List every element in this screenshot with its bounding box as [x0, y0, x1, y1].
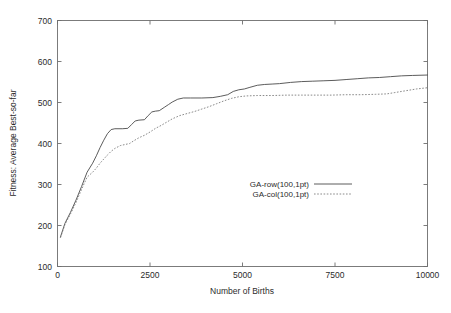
- y-axis-title: Fitness: Average Best-so-far: [8, 89, 18, 196]
- x-tick-label: 2500: [141, 270, 160, 280]
- plot-frame: [58, 21, 428, 267]
- line-chart: 100200300400500600700 025005000750010000…: [0, 0, 451, 313]
- y-tick-label: 600: [38, 57, 52, 67]
- x-tick-label: 7500: [326, 270, 345, 280]
- legend: GA-row(100,1pt) GA-col(100,1pt): [250, 180, 352, 199]
- y-tick-label: 500: [38, 98, 52, 108]
- series-line-ga-col: [60, 88, 427, 238]
- y-axis-tick-labels: 100200300400500600700: [38, 16, 52, 272]
- series-line-ga-row: [60, 75, 427, 237]
- x-tick-label: 5000: [233, 270, 252, 280]
- chart-figure: 100200300400500600700 025005000750010000…: [0, 0, 451, 313]
- y-tick-label: 200: [38, 221, 52, 231]
- y-tick-label: 100: [38, 262, 52, 272]
- y-tick-label: 400: [38, 139, 52, 149]
- y-tick-label: 300: [38, 180, 52, 190]
- legend-label-ga-row: GA-row(100,1pt): [250, 180, 309, 189]
- axis-tick-marks: [58, 21, 428, 267]
- x-axis-title: Number of Births: [210, 286, 274, 296]
- legend-label-ga-col: GA-col(100,1pt): [253, 190, 310, 199]
- x-axis-tick-labels: 025005000750010000: [55, 270, 439, 280]
- x-tick-label: 0: [55, 270, 60, 280]
- x-tick-label: 10000: [416, 270, 440, 280]
- y-tick-label: 700: [38, 16, 52, 26]
